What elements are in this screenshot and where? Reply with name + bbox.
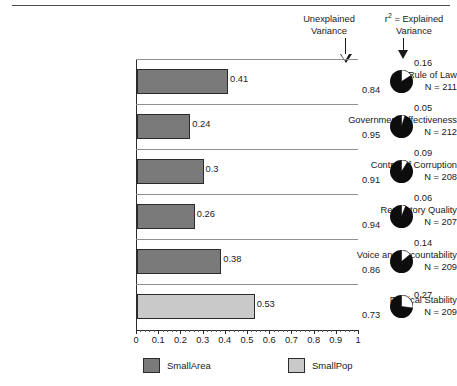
x-axis-minor-tick	[163, 330, 164, 332]
x-axis-minor-tick	[283, 330, 284, 332]
x-axis-minor-tick	[176, 330, 177, 332]
x-axis-minor-tick	[194, 330, 195, 332]
variance-pie-chart	[390, 250, 413, 273]
x-axis-minor-tick	[220, 330, 221, 332]
x-axis-tick	[358, 330, 359, 334]
x-axis-tick-label: 0.3	[196, 335, 209, 345]
variance-pie-chart	[390, 295, 413, 318]
explained-variance-label: 0.05	[414, 103, 432, 113]
x-axis-tick	[247, 330, 248, 334]
unexplained-variance-label: 0.94	[362, 220, 380, 230]
x-axis-minor-tick	[345, 330, 346, 332]
variance-pie-cell: 0.140.86	[368, 239, 432, 284]
variance-pie-cell: 0.060.94	[368, 194, 432, 239]
x-axis-minor-tick	[198, 330, 199, 332]
x-axis-minor-tick	[207, 330, 208, 332]
x-axis-tick-label: 0.4	[218, 335, 231, 345]
bar-value-label: 0.38	[223, 254, 241, 264]
bar-smallarea	[137, 69, 228, 94]
bar-value-label: 0.24	[192, 119, 210, 129]
x-axis-minor-tick	[287, 330, 288, 332]
bar-smallpop	[137, 294, 255, 319]
x-axis-minor-tick	[322, 330, 323, 332]
legend-label-smallpop: SmallPop	[312, 360, 353, 371]
x-axis-tick-label: 0.7	[285, 335, 298, 345]
x-axis-minor-tick	[309, 330, 310, 332]
legend-item-smallpop: SmallPop	[288, 358, 353, 373]
top-divider-rule	[12, 5, 450, 6]
x-axis-minor-tick	[256, 330, 257, 332]
bar-value-label: 0.53	[257, 299, 275, 309]
x-axis-minor-tick	[318, 330, 319, 332]
explained-variance-label: 0.16	[414, 58, 432, 68]
x-axis-minor-tick	[211, 330, 212, 332]
unexplained-variance-label: 0.95	[362, 130, 380, 140]
bar-smallarea	[137, 159, 204, 184]
x-axis-minor-tick	[189, 330, 190, 332]
x-axis-tick	[314, 330, 315, 334]
unexplained-variance-label: 0.84	[362, 85, 380, 95]
x-axis-minor-tick	[260, 330, 261, 332]
x-axis-minor-tick	[296, 330, 297, 332]
explained-variance-label: 0.06	[414, 193, 432, 203]
x-axis-minor-tick	[216, 330, 217, 332]
variance-pie-chart	[390, 70, 413, 93]
x-axis-minor-tick	[149, 330, 150, 332]
legend-swatch-smallarea	[143, 358, 160, 373]
x-axis-tick-label: 0.9	[329, 335, 342, 345]
x-axis-minor-tick	[305, 330, 306, 332]
x-axis-minor-tick	[145, 330, 146, 332]
x-axis-tick	[336, 330, 337, 334]
x-axis-tick-label: 0.2	[174, 335, 187, 345]
explained-variance-label: 0.27	[414, 290, 432, 300]
x-axis-minor-tick	[185, 330, 186, 332]
bar-value-label: 0.41	[230, 74, 248, 84]
x-axis-minor-tick	[265, 330, 266, 332]
x-axis-tick-label: 0.6	[263, 335, 276, 345]
bar-smallarea	[137, 204, 195, 229]
x-axis-tick	[225, 330, 226, 334]
annotation-explained-rest: = Explained	[394, 14, 443, 24]
legend-label-smallarea: SmallArea	[167, 360, 211, 371]
x-axis-tick-label: 0.1	[152, 335, 165, 345]
annotation-r-superscript: 2	[388, 12, 392, 19]
x-axis-tick-label: 0.8	[307, 335, 320, 345]
explained-variance-label: 0.09	[414, 148, 432, 158]
x-axis-minor-tick	[140, 330, 141, 332]
unexplained-variance-label: 0.86	[362, 265, 380, 275]
x-axis-tick	[269, 330, 270, 334]
x-axis-tick	[180, 330, 181, 334]
x-axis-minor-tick	[349, 330, 350, 332]
bar-value-label: 0.26	[197, 209, 215, 219]
variance-pie-cell: 0.050.95	[368, 104, 432, 149]
x-axis-tick-label: 0.5	[241, 335, 254, 345]
annotation-explained-line2: Variance	[396, 26, 432, 36]
x-axis-tick	[291, 330, 292, 334]
x-axis-minor-tick	[354, 330, 355, 332]
x-axis-minor-tick	[300, 330, 301, 332]
x-axis-minor-tick	[274, 330, 275, 332]
unexplained-variance-label: 0.91	[362, 175, 380, 185]
variance-pie-cell: 0.270.73	[368, 284, 432, 329]
arrow-head-explained	[398, 50, 408, 59]
bar-value-label: 0.3	[206, 164, 219, 174]
legend-item-smallarea: SmallArea	[143, 358, 211, 373]
x-axis-minor-tick	[278, 330, 279, 332]
x-axis-minor-tick	[251, 330, 252, 332]
x-axis-minor-tick	[327, 330, 328, 332]
legend-swatch-smallpop	[288, 358, 305, 373]
annotation-unexplained-variance: Unexplained Variance	[290, 14, 368, 37]
x-axis-minor-tick	[234, 330, 235, 332]
chart-figure: Unexplained Variance r2 = Explained Vari…	[0, 0, 457, 386]
variance-pie-cell: 0.160.84	[368, 59, 432, 104]
bar-smallarea	[137, 114, 190, 139]
x-axis-tick-label: 1	[355, 335, 360, 345]
x-axis-minor-tick	[167, 330, 168, 332]
annotation-unexplained-line1: Unexplained	[303, 14, 355, 24]
x-axis-minor-tick	[229, 330, 230, 332]
x-axis-minor-tick	[340, 330, 341, 332]
x-axis-minor-tick	[154, 330, 155, 332]
x-axis-tick	[203, 330, 204, 334]
variance-pie-chart	[390, 205, 413, 228]
x-axis-minor-tick	[331, 330, 332, 332]
